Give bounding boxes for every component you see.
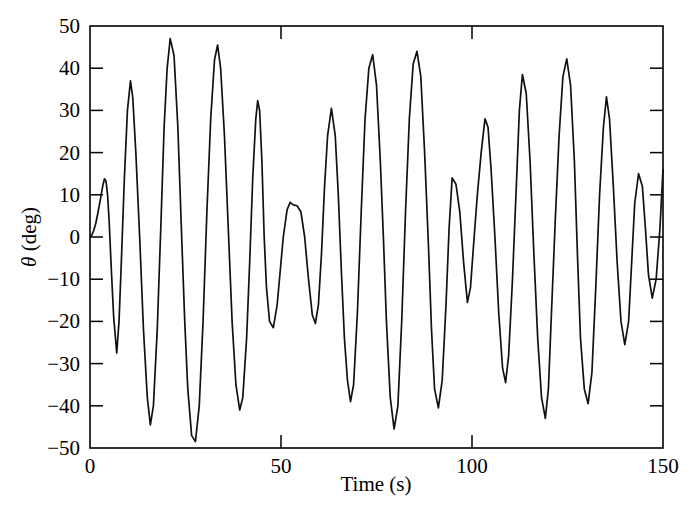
y-tick-label: −50 bbox=[47, 436, 80, 460]
x-tick-label: 100 bbox=[456, 454, 488, 478]
x-tick-label: 50 bbox=[271, 454, 292, 478]
theta-data-line bbox=[90, 39, 663, 442]
y-tick-label: 30 bbox=[59, 98, 80, 122]
y-tick-label: 0 bbox=[70, 225, 81, 249]
y-tick-label: 50 bbox=[59, 14, 80, 38]
y-axis-title: θ (deg) bbox=[17, 207, 41, 267]
svg-text:θ (deg): θ (deg) bbox=[17, 207, 41, 267]
y-axis-title-units: (deg) bbox=[17, 207, 41, 251]
x-tick-label: 150 bbox=[647, 454, 679, 478]
y-axis-title-symbol: θ bbox=[17, 257, 41, 267]
y-tick-label: −30 bbox=[47, 352, 80, 376]
theta-vs-time-chart: −50−40−30−20−1001020304050 050100150 θ (… bbox=[0, 0, 700, 507]
x-tick-label: 0 bbox=[85, 454, 96, 478]
x-axis-title: Time (s) bbox=[341, 472, 412, 496]
y-tick-label: 40 bbox=[59, 56, 80, 80]
y-axis-tick-labels: −50−40−30−20−1001020304050 bbox=[47, 14, 80, 460]
figure-container: −50−40−30−20−1001020304050 050100150 θ (… bbox=[0, 0, 700, 507]
y-tick-label: 10 bbox=[59, 183, 80, 207]
y-tick-label: −20 bbox=[47, 309, 80, 333]
y-tick-label: −10 bbox=[47, 267, 80, 291]
y-tick-label: 20 bbox=[59, 141, 80, 165]
y-tick-label: −40 bbox=[47, 394, 80, 418]
